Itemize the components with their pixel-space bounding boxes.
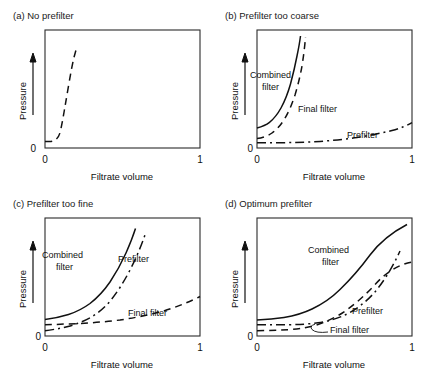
panel-b-ytick-0: 0 xyxy=(247,143,253,154)
panel-b-label-final-filter: Final filter xyxy=(298,104,337,114)
panel-b-label-prefilter: Prefilter xyxy=(347,130,378,140)
panel-d-ylabel: Pressure xyxy=(229,270,240,308)
panel-c-xtick-0: 0 xyxy=(42,342,48,353)
panel-d: (d) Optimum prefilter Pressure 0 0 1 Fil… xyxy=(212,188,424,376)
panel-a-curve-final-filter xyxy=(45,50,76,142)
panel-c-ylabel: Pressure xyxy=(17,270,28,308)
panel-a-xlabel: Filtrate volume xyxy=(91,171,153,182)
panel-c-curve-combined-filter xyxy=(45,229,136,320)
panel-d-plot: Pressure 0 0 1 Filtrate volume Combined … xyxy=(212,188,424,376)
panel-c-frame xyxy=(45,218,200,336)
panel-b-frame xyxy=(257,30,412,148)
panel-b-xlabel: Filtrate volume xyxy=(303,171,365,182)
panel-c-label-prefilter: Prefilter xyxy=(118,254,149,264)
panel-a-y-axis-arrowhead xyxy=(30,53,36,62)
panel-c-plot: Pressure 0 0 1 Filtrate volume Combined … xyxy=(0,188,212,376)
panel-b-plot: Pressure 0 0 1 Filtrate volume Combined … xyxy=(212,0,424,188)
panel-a-ylabel: Pressure xyxy=(17,82,28,120)
panel-d-curve-final-filter xyxy=(257,262,412,331)
panel-b-xtick-0: 0 xyxy=(254,154,260,165)
panel-c-label-combined-line1: Combined xyxy=(42,250,83,260)
panel-c: (c) Prefilter too fine Pressure 0 0 1 Fi… xyxy=(0,188,212,376)
panel-c-label-combined-line2: filter xyxy=(56,262,73,272)
panel-b-y-axis-arrowhead xyxy=(242,53,248,62)
panel-d-ytick-0: 0 xyxy=(247,331,253,342)
panel-c-curve-final-filter xyxy=(45,297,200,325)
panel-d-label-final-filter: Final filter xyxy=(330,325,369,335)
panel-b: (b) Prefilter too coarse Pressure 0 0 1 … xyxy=(212,0,424,188)
panel-c-y-axis-arrowhead xyxy=(30,241,36,250)
panel-c-ytick-0: 0 xyxy=(35,331,41,342)
figure-filtration-pressure-curves: (a) No prefilter Pressure 0 0 1 Filtrate… xyxy=(0,0,424,376)
panel-d-label-prefilter: Prefilter xyxy=(352,306,383,316)
panel-b-label-combined-line1: Combined xyxy=(250,70,291,80)
panel-d-label-combined-line1: Combined xyxy=(308,245,349,255)
panel-a-xtick-1: 1 xyxy=(197,154,203,165)
panel-a: (a) No prefilter Pressure 0 0 1 Filtrate… xyxy=(0,0,212,188)
panel-d-xtick-0: 0 xyxy=(254,342,260,353)
panel-d-curve-combined-filter xyxy=(257,225,407,321)
panel-d-label-combined-line2: filter xyxy=(322,257,339,267)
panel-d-xtick-1: 1 xyxy=(409,342,415,353)
panel-a-plot: Pressure 0 0 1 Filtrate volume xyxy=(0,0,212,188)
panel-b-xtick-1: 1 xyxy=(409,154,415,165)
panel-d-y-axis-arrowhead xyxy=(242,241,248,250)
panel-c-xtick-1: 1 xyxy=(197,342,203,353)
panel-a-xtick-0: 0 xyxy=(42,154,48,165)
panel-c-label-final-filter: Final filter xyxy=(128,308,167,318)
panel-b-label-combined-line2: filter xyxy=(262,82,279,92)
panel-b-ylabel: Pressure xyxy=(229,82,240,120)
panel-a-ytick-0: 0 xyxy=(30,143,36,154)
panel-d-xlabel: Filtrate volume xyxy=(303,359,365,370)
panel-d-final-filter-leader-line xyxy=(311,324,328,332)
panel-c-xlabel: Filtrate volume xyxy=(91,359,153,370)
